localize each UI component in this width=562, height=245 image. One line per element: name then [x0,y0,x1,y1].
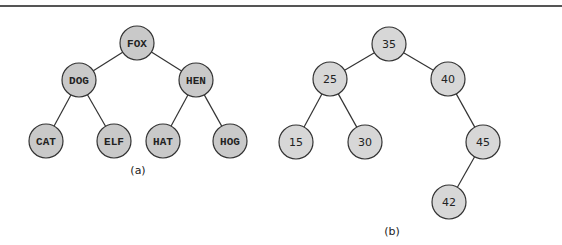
tree-edge [87,95,105,127]
node-label: DOG [69,75,89,87]
caption-a: (a) [130,164,145,177]
binary-trees-diagram: FOXDOGHENCATELFHATHOG35254015304542 [0,0,562,245]
tree-a: FOXDOGHENCATELFHATHOG [29,26,247,158]
tree-edge [151,52,181,71]
node-label: HOG [220,136,240,148]
node-label: 25 [323,73,337,86]
tree-b: 35254015304542 [279,27,500,219]
tree-edge [404,53,434,71]
tree-edge [54,95,71,126]
node-label: 45 [476,136,490,149]
tree-edge [457,157,474,187]
node-label: 35 [382,38,396,51]
node-label: 40 [441,73,455,86]
node-label: ELF [104,136,124,148]
tree-edge [171,95,188,126]
caption-b: (b) [384,225,400,238]
node-label: FOX [127,38,147,50]
tree-edge [456,94,474,127]
tree-edge [93,52,122,71]
tree-edge [204,95,221,126]
node-label: 15 [289,136,303,149]
node-label: HAT [153,136,173,148]
node-label: CAT [36,136,56,148]
tree-edge [304,94,322,127]
tree-edge [338,94,356,127]
node-label: 30 [358,136,372,149]
node-label: HEN [186,75,206,87]
node-label: 42 [442,196,456,209]
tree-edge [345,53,375,71]
